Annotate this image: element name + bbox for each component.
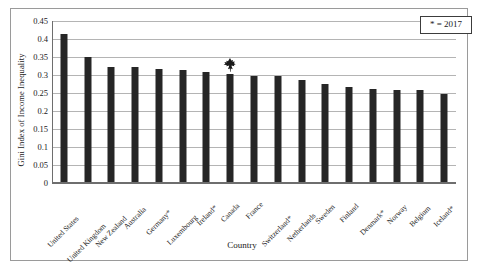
- x-tick-label-text: Finland: [339, 202, 361, 224]
- bar-slot: [100, 21, 124, 183]
- bar[interactable]: [108, 67, 115, 183]
- bar[interactable]: [346, 87, 353, 183]
- bar[interactable]: [250, 76, 257, 183]
- x-tick-slot: Australia: [123, 184, 147, 240]
- legend: * = 2017: [420, 16, 472, 34]
- bar-slot: [218, 21, 242, 183]
- y-tick-label: 0: [6, 179, 52, 188]
- bar-slot: [432, 21, 456, 183]
- y-tick-label: 0.35: [6, 53, 52, 62]
- bar-slot: [76, 21, 100, 183]
- bar-slot: [337, 21, 361, 183]
- x-tick-label-text: France: [245, 201, 265, 221]
- y-tick-label: 0.3: [6, 71, 52, 80]
- bar-slot: [361, 21, 385, 183]
- bar[interactable]: [441, 94, 448, 183]
- bar[interactable]: [227, 74, 234, 183]
- x-tick-label-text: Canada: [220, 202, 242, 224]
- y-tick-label: 0.25: [6, 89, 52, 98]
- bar[interactable]: [393, 90, 400, 183]
- bar[interactable]: [369, 89, 376, 183]
- bar[interactable]: [322, 84, 329, 183]
- bar[interactable]: [84, 57, 91, 183]
- x-tick-label-text: Sweden: [314, 203, 337, 226]
- x-tick-label-text: Netherlands: [285, 212, 317, 244]
- bar-slot: [266, 21, 290, 183]
- bar-slot: [147, 21, 171, 183]
- x-tick-slot: Canada: [218, 184, 242, 240]
- x-tick-label-text: Australia: [123, 206, 148, 231]
- x-tick-slot: Germany*: [147, 184, 171, 240]
- x-tick-slot: Sweden: [313, 184, 337, 240]
- y-axis-line: [52, 21, 53, 183]
- bar-slot: [385, 21, 409, 183]
- plot-area: [52, 21, 456, 183]
- bar-slot: [290, 21, 314, 183]
- x-tick-slot: Switzerland*: [266, 184, 290, 240]
- x-tick-slot: Denmark*: [361, 184, 385, 240]
- bar-slot: [171, 21, 195, 183]
- bar-slot: [242, 21, 266, 183]
- y-tick-label: 0.15: [6, 125, 52, 134]
- bar[interactable]: [417, 90, 424, 183]
- y-tick-label: 0.4: [6, 35, 52, 44]
- bar-slot: [123, 21, 147, 183]
- x-tick-label-text: Belgium: [409, 204, 433, 228]
- x-tick-slot: Luxembourg: [171, 184, 195, 240]
- bar[interactable]: [298, 80, 305, 183]
- x-tick-label-text: Denmark*: [359, 209, 387, 237]
- y-tick-label: 0.45: [6, 17, 52, 26]
- y-tick-label: 0.05: [6, 161, 52, 170]
- x-axis-ticks: United StatesUnited KingdomNew ZealandAu…: [52, 184, 456, 240]
- x-tick-label-text: Germany*: [145, 209, 173, 237]
- x-tick-label-text: Iceland*: [432, 204, 456, 228]
- x-tick-label-text: Ireland*: [195, 204, 219, 228]
- y-axis-ticks: 0.450.40.350.30.250.20.150.10.050: [0, 0, 52, 276]
- x-tick-slot: Finland: [337, 184, 361, 240]
- x-tick-label-text: Norway: [386, 203, 409, 226]
- x-tick-slot: Norway: [385, 184, 409, 240]
- x-tick-slot: New Zealand: [100, 184, 124, 240]
- x-tick-slot: United Kingdom: [76, 184, 100, 240]
- bar[interactable]: [274, 76, 281, 183]
- x-axis-title: Country: [0, 240, 484, 250]
- bar[interactable]: [155, 69, 162, 183]
- bar-slot: [313, 21, 337, 183]
- bar-slot: [52, 21, 76, 183]
- bar[interactable]: [132, 67, 139, 183]
- bar-slot: [408, 21, 432, 183]
- bar-slot: [195, 21, 219, 183]
- bar[interactable]: [179, 70, 186, 183]
- y-tick-label: 0.2: [6, 107, 52, 116]
- x-tick-slot: Netherlands: [290, 184, 314, 240]
- x-tick-slot: Belgium: [408, 184, 432, 240]
- x-tick-slot: France: [242, 184, 266, 240]
- bar[interactable]: [60, 34, 67, 183]
- x-tick-slot: Ireland*: [195, 184, 219, 240]
- x-tick-slot: United States: [52, 184, 76, 240]
- x-tick-slot: Iceland*: [432, 184, 456, 240]
- x-axis-line: [52, 182, 456, 183]
- y-tick-label: 0.1: [6, 143, 52, 152]
- legend-label: * = 2017: [430, 19, 462, 29]
- bar[interactable]: [203, 72, 210, 183]
